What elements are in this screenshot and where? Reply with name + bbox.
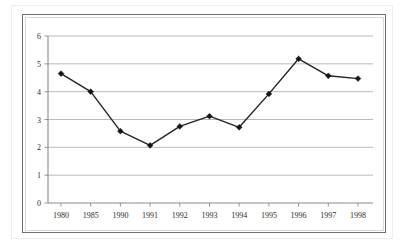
x-axis-label-1990: 1990 [112, 211, 128, 220]
line-chart: 0123456 19801985199019911992199319941995… [23, 15, 384, 231]
x-axis-label-1995: 1995 [261, 211, 277, 220]
x-axis-label-1994: 1994 [231, 211, 247, 220]
y-axis-label-3: 3 [37, 116, 41, 125]
x-axis-label-1993: 1993 [202, 211, 218, 220]
series-line-1 [61, 59, 358, 146]
y-axis-label-4: 4 [37, 88, 41, 97]
x-axis-label-1980: 1980 [53, 211, 69, 220]
x-axis-label-1996: 1996 [291, 211, 307, 220]
y-axis-label-0: 0 [37, 199, 41, 208]
y-axis-label-6: 6 [37, 32, 41, 41]
gridlines-group [48, 36, 373, 175]
data-point-1997 [325, 73, 331, 79]
y-axis-label-1: 1 [37, 171, 41, 180]
y-axis-labels-group: 0123456 [37, 32, 41, 208]
x-axis-labels-group: 1980198519901991199219931994199519961997… [53, 211, 366, 220]
x-axis-label-1985: 1985 [83, 211, 99, 220]
y-axis-label-2: 2 [37, 143, 41, 152]
x-axis-label-1991: 1991 [142, 211, 158, 220]
x-axis-label-1998: 1998 [350, 211, 366, 220]
series-markers-group [58, 56, 361, 148]
chart-plot-frame: 0123456 19801985199019911992199319941995… [22, 14, 386, 233]
x-axis-label-1992: 1992 [172, 211, 188, 220]
x-axis-label-1997: 1997 [320, 211, 336, 220]
data-point-1998 [355, 76, 361, 82]
chart-figure: 0123456 19801985199019911992199319941995… [0, 0, 407, 246]
data-point-1993 [207, 113, 213, 119]
y-axis-label-5: 5 [37, 60, 41, 69]
